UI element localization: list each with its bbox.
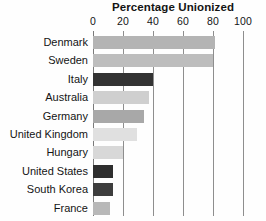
bar-row: United States [93,165,244,178]
category-label-denmark: Denmark [0,36,88,49]
bar-hungary [93,146,123,159]
x-tick-label-80: 80 [207,15,219,27]
bar-row: Denmark [93,36,244,49]
x-tick-label-20: 20 [117,15,129,27]
category-label-france: France [0,202,88,215]
bar-row: South Korea [93,183,244,196]
category-label-south-korea: South Korea [0,183,88,196]
bar-france [93,202,110,215]
plot-area: DenmarkSwedenItalyAustraliaGermanyUnited… [93,31,244,216]
bar-denmark [93,36,215,49]
chart-container: Percentage Unionized 0 20 40 60 80 100 D… [0,0,266,221]
bar-row: United Kingdom [93,128,244,141]
bar-row: Italy [93,73,244,86]
chart-title: Percentage Unionized [93,1,253,13]
bar-united-kingdom [93,128,137,141]
category-label-united-states: United States [0,165,88,178]
bar-row: France [93,202,244,215]
category-label-united-kingdom: United Kingdom [0,128,88,141]
bar-south-korea [93,183,113,196]
bar-row: Sweden [93,54,244,67]
bar-italy [93,73,153,86]
x-tick-label-40: 40 [147,15,159,27]
category-label-hungary: Hungary [0,146,88,159]
bar-row: Australia [93,91,244,104]
x-tick-label-100: 100 [234,15,252,27]
bar-sweden [93,54,213,67]
bar-germany [93,110,144,123]
category-label-germany: Germany [0,110,88,123]
bar-united-states [93,165,113,178]
category-label-italy: Italy [0,73,88,86]
category-label-australia: Australia [0,91,88,104]
x-tick-label-60: 60 [177,15,189,27]
category-label-sweden: Sweden [0,54,88,67]
bar-row: Germany [93,110,244,123]
bar-australia [93,91,149,104]
bar-row: Hungary [93,146,244,159]
x-tick-label-0: 0 [90,15,96,27]
